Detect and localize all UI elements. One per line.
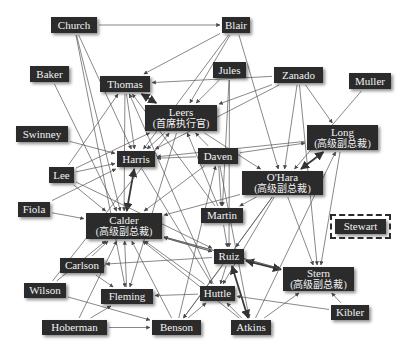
edge-benson-to-calder xyxy=(132,241,172,318)
edge-blair-to-ohara xyxy=(239,35,278,169)
node-leers: Leers(首席执行官) xyxy=(145,105,217,131)
edge-daven-to-calder xyxy=(144,166,204,211)
edge-jules-to-martin xyxy=(222,80,228,206)
edge-atkins-to-stern xyxy=(264,293,299,318)
node-label: Long xyxy=(331,127,354,138)
node-label: Benson xyxy=(160,322,193,333)
edge-fleming-to-calder xyxy=(125,241,127,287)
node-jules: Jules xyxy=(213,62,246,78)
node-hoberman: Hoberman xyxy=(42,320,107,335)
edge-kibler-to-huttle xyxy=(237,296,329,309)
edge-ruiz-to-huttle xyxy=(220,266,226,284)
node-ruiz: Ruiz xyxy=(214,249,244,264)
node-title: (高级副总裁) xyxy=(96,226,153,237)
node-label: Atkins xyxy=(236,322,265,333)
node-label: Hoberman xyxy=(51,322,97,333)
node-long: Long(高级副总裁) xyxy=(307,125,378,150)
node-benson: Benson xyxy=(152,320,201,335)
edge-carlson-to-calder xyxy=(92,241,108,256)
node-stern: Stern(高级副总裁) xyxy=(283,267,354,291)
edge-church-to-harris xyxy=(79,35,132,149)
node-daven: Daven xyxy=(198,148,238,164)
edge-ruiz-to-stern xyxy=(246,261,281,270)
node-atkins: Atkins xyxy=(231,320,271,335)
edge-swinney-to-harris xyxy=(70,141,115,153)
edge-hoberman-to-fleming xyxy=(91,306,111,318)
edge-huttle-to-fleming xyxy=(155,294,198,295)
node-label: Fleming xyxy=(109,291,146,302)
node-label: Muller xyxy=(355,76,385,87)
node-swinney: Swinney xyxy=(16,126,68,142)
node-thomas: Thomas xyxy=(100,76,150,92)
node-fiola: Fiola xyxy=(18,202,50,217)
node-label: Wilson xyxy=(29,285,60,296)
edge-zanado-to-ohara xyxy=(285,85,297,169)
node-label: Baker xyxy=(36,69,62,80)
node-zanado: Zanado xyxy=(274,67,323,83)
node-label: Harris xyxy=(122,154,150,165)
node-blair: Blair xyxy=(222,17,250,33)
node-label: Daven xyxy=(204,151,233,162)
node-label: Jules xyxy=(219,65,241,76)
edge-ruiz-to-carlson xyxy=(106,258,212,264)
edge-zanado-to-leers xyxy=(219,85,272,104)
edge-blair-to-harris xyxy=(143,35,228,149)
node-title: (首席执行官) xyxy=(153,118,210,129)
edge-zanado-to-long xyxy=(306,85,333,123)
edge-jules-to-leers xyxy=(196,80,219,103)
edge-daven-to-leers xyxy=(196,133,209,146)
edge-church-to-calder xyxy=(76,35,120,211)
node-harris: Harris xyxy=(117,151,155,167)
node-huttle: Huttle xyxy=(200,286,235,301)
org-network-diagram: ChurchBlairBakerThomasJulesZanadoMullerL… xyxy=(0,0,406,357)
edge-lee-to-thomas xyxy=(68,94,118,165)
node-martin: Martin xyxy=(201,208,243,223)
node-label: Blair xyxy=(225,20,247,31)
edge-ohara-to-stern xyxy=(288,197,314,265)
edge-zanado-to-thomas xyxy=(152,76,272,82)
edge-harris-to-calder xyxy=(127,169,135,211)
node-label: Swinney xyxy=(23,129,62,140)
edge-martin-to-ruiz xyxy=(224,225,228,247)
node-calder: Calder(高级副总裁) xyxy=(86,213,162,239)
node-muller: Muller xyxy=(349,73,391,89)
node-wilson: Wilson xyxy=(24,283,66,298)
node-fleming: Fleming xyxy=(101,289,153,304)
edge-hoberman-to-calder xyxy=(79,241,117,318)
node-label: Church xyxy=(58,20,90,31)
edge-ohara-to-martin xyxy=(240,197,257,206)
node-label: O'Hara xyxy=(267,172,298,183)
node-label: Huttle xyxy=(204,288,232,299)
node-title: (高级副总裁) xyxy=(314,138,371,149)
edge-thomas-to-leers xyxy=(141,94,156,103)
edge-daven-to-harris xyxy=(157,157,196,158)
edge-blair-to-thomas xyxy=(144,34,220,74)
edge-long-to-ohara xyxy=(301,152,323,169)
edge-martin-to-leers xyxy=(187,133,218,206)
node-label: Leers xyxy=(169,107,193,118)
edge-baker-to-calder xyxy=(54,84,116,211)
node-label: Kibler xyxy=(336,307,364,318)
edge-atkins-to-huttle xyxy=(227,303,242,318)
figure-caption xyxy=(80,347,340,353)
node-title: (高级副总裁) xyxy=(254,183,311,194)
node-church: Church xyxy=(51,17,97,33)
edge-kibler-to-stern xyxy=(332,293,341,303)
node-carlson: Carlson xyxy=(60,258,104,273)
edge-carlson-to-fleming xyxy=(96,275,113,287)
node-label: Fiola xyxy=(23,204,46,215)
node-label: Zanado xyxy=(282,70,315,81)
edge-long-to-stern xyxy=(321,152,340,265)
node-label: Stern xyxy=(307,268,330,279)
edge-benson-to-huttle xyxy=(188,303,206,318)
node-label: Martin xyxy=(207,210,237,221)
node-baker: Baker xyxy=(30,66,69,82)
node-label: Thomas xyxy=(107,79,142,90)
node-label: Stewart xyxy=(344,221,378,232)
node-title: (高级副总裁) xyxy=(290,279,347,290)
node-label: Carlson xyxy=(65,260,99,271)
node-stewart: Stewart xyxy=(335,219,386,234)
edge-huttle-to-calder xyxy=(145,241,205,284)
edge-fiola-to-calder xyxy=(52,213,84,219)
node-ohara: O'Hara(高级副总裁) xyxy=(242,171,323,195)
